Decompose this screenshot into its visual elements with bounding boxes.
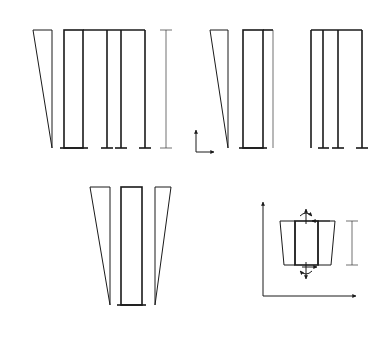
panel-a xyxy=(33,30,172,148)
lateral-load-q-a xyxy=(33,30,52,148)
wall-element-d xyxy=(295,221,318,265)
shear-wall-frame-diagram xyxy=(0,0,380,342)
wall-link-b xyxy=(263,30,273,148)
lateral-load-q-c xyxy=(90,187,110,305)
axes-d xyxy=(263,202,356,296)
axes-ab xyxy=(196,130,214,152)
interaction-load-qf-d xyxy=(318,221,335,265)
shear-wall-a xyxy=(64,30,83,148)
panel-b xyxy=(0,0,368,148)
shear-wall-b xyxy=(243,30,263,148)
dz-dimension xyxy=(346,221,358,265)
lateral-load-q-d xyxy=(280,221,295,265)
panel-d xyxy=(0,0,358,296)
frame-a xyxy=(83,30,145,148)
height-dimension xyxy=(160,30,172,148)
interaction-load-qf-c xyxy=(155,187,171,305)
frame-b xyxy=(311,30,362,148)
shear-wall-c xyxy=(121,187,142,305)
lateral-load-q-b xyxy=(210,30,228,148)
